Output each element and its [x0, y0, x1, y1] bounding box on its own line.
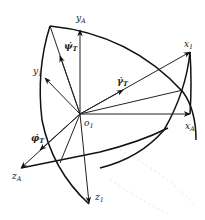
- label-psi-dot: ψ̇T: [64, 41, 78, 53]
- arc-left: [40, 26, 89, 204]
- label-z1: z1: [94, 192, 104, 204]
- label-yA: yA: [75, 13, 86, 25]
- line-to-intersection: [80, 90, 183, 114]
- coordinate-frame-diagram: yA y1 x1 xA zA z1 o1 ψ̇T γ̇T φ̇T: [0, 0, 205, 220]
- rate-gamma-arrow: [80, 90, 123, 114]
- label-zA: zA: [11, 171, 22, 183]
- background-artifact: [120, 150, 195, 205]
- label-gamma-dot: γ̇T: [117, 76, 129, 88]
- rate-phi-arrow: [40, 114, 80, 150]
- line-to-bottom-intersection: [60, 114, 80, 163]
- label-phi-dot: φ̇T: [31, 133, 45, 145]
- label-origin: o1: [84, 118, 94, 130]
- axis-y1: [45, 78, 80, 114]
- arc-x: [190, 52, 191, 114]
- label-x1: x1: [184, 39, 193, 51]
- rate-psi-arrow: [60, 56, 80, 114]
- arc-right: [100, 52, 190, 168]
- background-artifact: [110, 180, 170, 215]
- label-xA: xA: [185, 121, 195, 133]
